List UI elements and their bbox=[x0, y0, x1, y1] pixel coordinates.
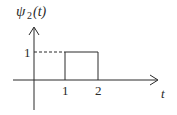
waveform-diagram: ψ 2 (t) 1 1 2 t bbox=[0, 0, 177, 115]
rectangular-pulse bbox=[65, 52, 98, 80]
function-title-arg: (t) bbox=[33, 4, 47, 20]
function-title-subscript: 2 bbox=[27, 10, 32, 21]
x-tick-label-1: 1 bbox=[62, 83, 69, 98]
y-tick-label-1: 1 bbox=[24, 45, 31, 60]
function-title-symbol: ψ bbox=[16, 3, 26, 19]
x-axis-label: t bbox=[161, 86, 165, 101]
x-tick-label-2: 2 bbox=[95, 83, 102, 98]
